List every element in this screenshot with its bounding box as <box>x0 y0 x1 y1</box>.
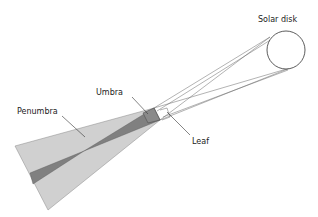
label-umbra: Umbra <box>96 88 123 97</box>
shadow-diagram: Solar disk Umbra Penumbra Leaf <box>0 0 318 217</box>
solar-disk <box>267 31 305 69</box>
label-solar-disk: Solar disk <box>258 15 297 24</box>
label-leaf: Leaf <box>192 137 209 146</box>
label-penumbra: Penumbra <box>17 107 58 116</box>
